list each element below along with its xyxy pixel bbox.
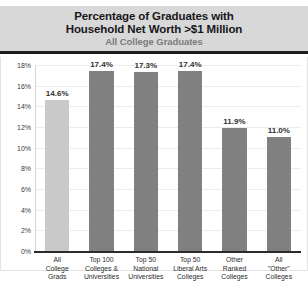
y-axis-tick-label: 2% (21, 227, 31, 234)
bar-group: 14.6% (35, 65, 79, 251)
y-axis-tick-label: 18% (17, 62, 31, 69)
bar-group: 17.4% (168, 65, 212, 251)
bars-layer: 14.6%17.4%17.3%17.4%11.9%11.0% (35, 65, 301, 251)
plot-area: 14.6%17.4%17.3%17.4%11.9%11.0% (35, 65, 301, 251)
bar-value-label: 11.0% (268, 126, 290, 135)
bar (45, 100, 69, 251)
chart-header: Percentage of Graduates with Household N… (0, 6, 308, 54)
bar-group: 11.9% (212, 65, 256, 251)
chart-title: Percentage of Graduates with Household N… (0, 10, 308, 35)
x-axis-category-label: Top 100 Colleges & Universities (79, 256, 123, 282)
y-axis-tick-label: 4% (21, 206, 31, 213)
y-axis-tick-label: 16% (17, 82, 31, 89)
plot-frame: 0%2%4%6%8%10%12%14%16%18% 14.6%17.4%17.3… (0, 57, 308, 271)
y-axis: 0%2%4%6%8%10%12%14%16%18% (1, 57, 34, 257)
bar-group: 17.4% (79, 65, 123, 251)
bar-value-label: 17.4% (90, 60, 113, 69)
bar-group: 17.3% (124, 65, 168, 251)
chart-subtitle: All College Graduates (0, 36, 308, 47)
x-axis-category-label: Other Ranked Colleges (212, 256, 256, 282)
bar-value-label: 11.9% (223, 117, 245, 126)
y-axis-tick-label: 10% (17, 144, 31, 151)
x-axis-category-label: Top 50 Liberal Arts Colleges (168, 256, 212, 282)
bar-value-label: 14.6% (46, 89, 69, 98)
x-axis-category-label: All "Other" Colleges (257, 256, 301, 282)
bar-value-label: 17.4% (179, 60, 202, 69)
x-axis-category-label: All College Grads (35, 256, 79, 282)
x-axis-line (34, 251, 301, 253)
y-axis-tick-label: 6% (21, 186, 31, 193)
bar-group: 11.0% (257, 65, 301, 251)
x-axis-category-label: Top 50 National Universities (124, 256, 168, 282)
bar (222, 128, 246, 251)
x-axis-categories: All College GradsTop 100 Colleges & Univ… (35, 256, 301, 285)
bar (134, 72, 158, 251)
bar (178, 71, 202, 251)
bar (89, 71, 113, 251)
bar (267, 137, 291, 251)
y-axis-tick-label: 12% (17, 124, 31, 131)
y-axis-tick-label: 8% (21, 165, 31, 172)
y-axis-tick-label: 14% (17, 103, 31, 110)
bar-value-label: 17.3% (134, 61, 157, 70)
y-axis-tick-label: 0% (21, 248, 31, 255)
